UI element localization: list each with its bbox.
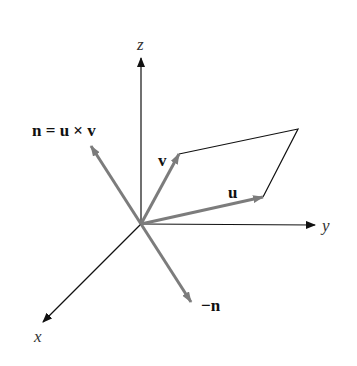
x-axis	[43, 224, 141, 322]
vector-neg-n	[141, 224, 191, 302]
vector-n	[91, 146, 141, 224]
v-vector-label: v	[158, 151, 167, 170]
y-axis	[141, 224, 315, 225]
n-vector-label: n = u × v	[32, 121, 96, 140]
neg-n-vector-label: −n	[201, 296, 221, 315]
cross-product-diagram: z y x n = u × v v u −n	[0, 0, 357, 366]
y-axis-label: y	[320, 216, 330, 235]
z-axis-label: z	[136, 35, 144, 54]
u-vector-label: u	[228, 183, 237, 202]
vector-u	[141, 197, 263, 224]
x-axis-label: x	[33, 327, 42, 346]
parallelogram	[179, 129, 298, 197]
